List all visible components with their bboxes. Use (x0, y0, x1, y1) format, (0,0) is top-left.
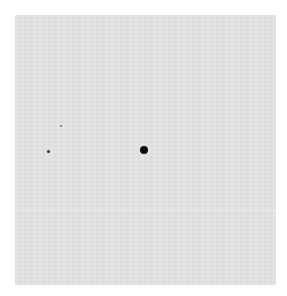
tiny-speck (60, 125, 62, 127)
faint-seam-line (15, 210, 276, 211)
large-dot (140, 146, 148, 154)
small-speck (47, 150, 50, 153)
